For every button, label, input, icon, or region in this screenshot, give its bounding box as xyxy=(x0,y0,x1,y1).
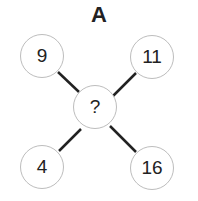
node-bottom-right: 16 xyxy=(130,146,174,190)
node-center-unknown: ? xyxy=(73,85,117,129)
puzzle-diagram: A 9 11 ? 4 16 xyxy=(0,0,198,201)
node-top-left: 9 xyxy=(20,34,64,78)
node-top-right: 11 xyxy=(130,35,174,79)
node-bottom-left: 4 xyxy=(20,145,64,189)
diagram-title: A xyxy=(0,2,198,28)
